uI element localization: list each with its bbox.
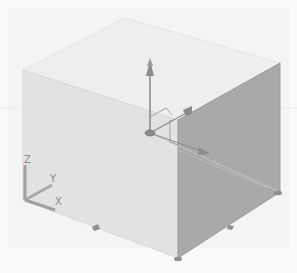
viewport-canvas[interactable]: Z Y X: [0, 0, 297, 273]
ucs-z-label: Z: [24, 154, 31, 165]
gizmo-origin-handle[interactable]: [145, 130, 155, 136]
grip-right-corner[interactable]: [274, 191, 282, 195]
3d-viewport[interactable]: Z Y X: [0, 0, 297, 273]
grip-bottom-corner[interactable]: [174, 257, 182, 261]
ucs-x-label: X: [55, 196, 62, 207]
ucs-y-label: Y: [49, 173, 57, 184]
